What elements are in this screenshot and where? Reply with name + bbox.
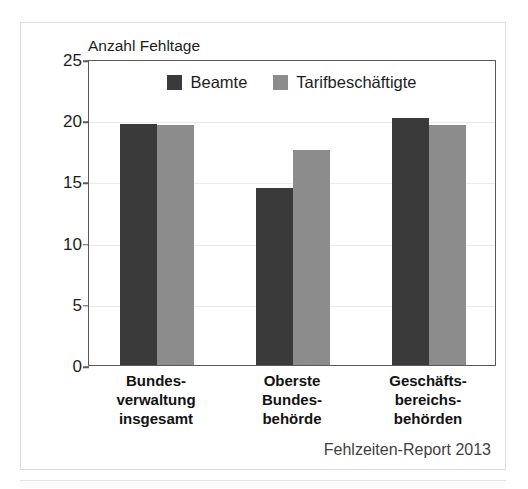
y-tick-label: 25 <box>63 51 82 71</box>
y-tick-label: 20 <box>63 112 82 132</box>
bar-tarifbeschäftigte-1 <box>293 150 330 365</box>
plot-area: 0510152025 <box>88 60 496 366</box>
category-label-2: Geschäfts- bereichs- behörden <box>360 371 496 429</box>
bar-beamte-1 <box>256 188 293 365</box>
page-strip-below <box>20 480 506 488</box>
bar-tarifbeschäftigte-2 <box>429 125 466 365</box>
source-note: Fehlzeiten-Report 2013 <box>324 441 491 459</box>
y-tick-mark <box>83 244 89 246</box>
y-tick-label: 15 <box>63 173 82 193</box>
bar-beamte-2 <box>392 118 429 365</box>
y-tick-label: 0 <box>73 357 82 377</box>
y-axis-title: Anzahl Fehltage <box>88 37 200 55</box>
y-tick-mark <box>83 183 89 185</box>
y-tick-mark <box>83 305 89 307</box>
category-label-0: Bundes- verwaltung insgesamt <box>88 371 224 429</box>
y-tick-mark <box>83 366 89 368</box>
bar-beamte-0 <box>120 124 157 365</box>
bar-tarifbeschäftigte-0 <box>157 125 194 365</box>
y-tick-label: 10 <box>63 235 82 255</box>
y-tick-mark <box>83 60 89 62</box>
y-tick-mark <box>83 121 89 123</box>
figure-card: Anzahl Fehltage 0510152025 BeamteTarifbe… <box>20 22 506 470</box>
y-tick-label: 5 <box>73 296 82 316</box>
category-label-1: Oberste Bundes- behörde <box>224 371 360 429</box>
